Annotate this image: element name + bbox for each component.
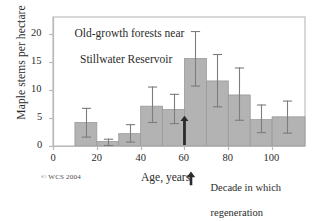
bar: [272, 117, 305, 146]
chart-figure: Maple stems per hectare Old-growth fores…: [0, 0, 328, 221]
y-tick-label: 0: [37, 139, 42, 150]
legend-note-line-1: Decade in which: [211, 182, 282, 193]
x-tick-label: 60: [179, 152, 190, 163]
bar: [141, 106, 163, 146]
chart-title-line-2: Stillwater Reservoir: [80, 53, 184, 66]
copyright-notice: © WCS 2004: [41, 174, 81, 182]
x-tick-label: 80: [223, 152, 234, 163]
chart-title: Old-growth forests near Stillwater Reser…: [63, 14, 184, 91]
legend-note-line-2: regeneration: [211, 207, 263, 218]
y-tick-label: 5: [37, 111, 42, 122]
y-tick-label: 20: [31, 27, 42, 38]
x-tick-label: 20: [92, 152, 103, 163]
bar: [119, 134, 141, 146]
x-axis-title: Age, years: [141, 171, 190, 184]
y-tick-label: 15: [31, 55, 42, 66]
legend-note: Decade in which regeneration started to …: [200, 170, 288, 221]
x-tick-label: 0: [51, 152, 56, 163]
x-tick-label: 100: [264, 152, 280, 163]
decade-arrow-icon: [185, 171, 197, 186]
bar: [75, 122, 97, 146]
chart-title-line-1: Old-growth forests near: [75, 27, 185, 39]
y-tick-label: 10: [31, 83, 42, 94]
bar: [163, 110, 185, 146]
y-axis-title: Maple stems per hectare: [15, 0, 28, 127]
x-tick-label: 40: [136, 152, 147, 163]
